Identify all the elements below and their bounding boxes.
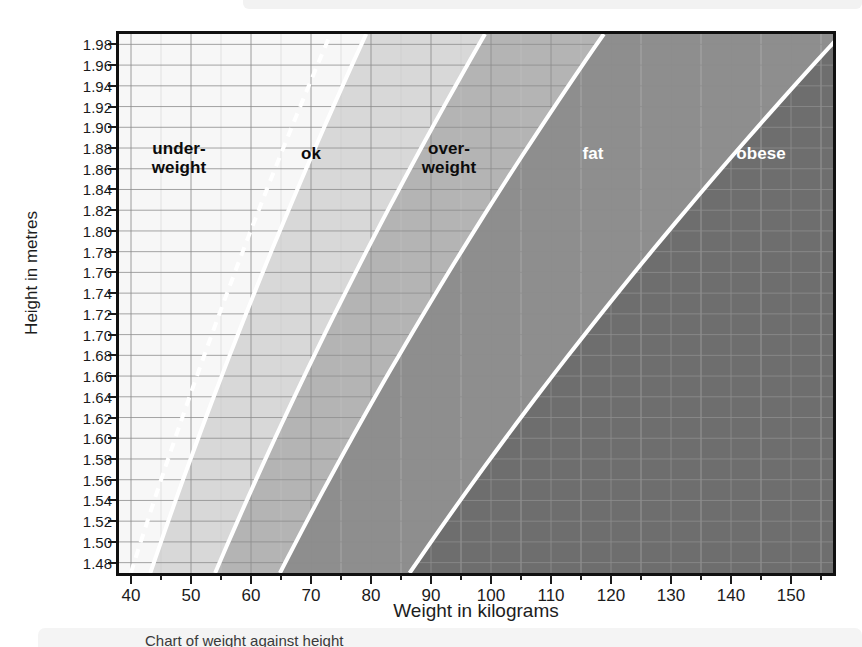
x-tick-mark-minor	[580, 575, 582, 580]
x-tick-mark-major	[370, 575, 372, 584]
x-tick-mark-major	[730, 575, 732, 584]
figure-caption: Chart of weight against height	[145, 631, 845, 647]
x-tick-mark-minor	[460, 575, 462, 580]
x-tick-mark-minor	[400, 575, 402, 580]
x-tick-mark-major	[310, 575, 312, 584]
x-axis-tick-labels: 405060708090100110120130140150	[0, 0, 862, 647]
x-tick-mark-major	[190, 575, 192, 584]
x-tick-mark-minor	[220, 575, 222, 580]
x-tick-mark-major	[610, 575, 612, 584]
x-axis-title: Weight in kilograms	[116, 600, 836, 622]
bmi-chart-figure: Height in metres 1.981.961.941.921.901.8…	[0, 0, 862, 647]
x-tick-mark-major	[790, 575, 792, 584]
x-tick-mark-major	[490, 575, 492, 584]
x-tick-mark-minor	[280, 575, 282, 580]
x-tick-mark-major	[670, 575, 672, 584]
x-tick-mark-minor	[700, 575, 702, 580]
x-tick-mark-major	[250, 575, 252, 584]
x-tick-mark-minor	[340, 575, 342, 580]
x-tick-mark-minor	[640, 575, 642, 580]
x-tick-mark-major	[550, 575, 552, 584]
x-tick-mark-major	[130, 575, 132, 584]
x-tick-mark-minor	[820, 575, 822, 580]
x-tick-mark-minor	[520, 575, 522, 580]
x-tick-mark-minor	[760, 575, 762, 580]
x-tick-mark-major	[430, 575, 432, 584]
x-tick-mark-minor	[160, 575, 162, 580]
